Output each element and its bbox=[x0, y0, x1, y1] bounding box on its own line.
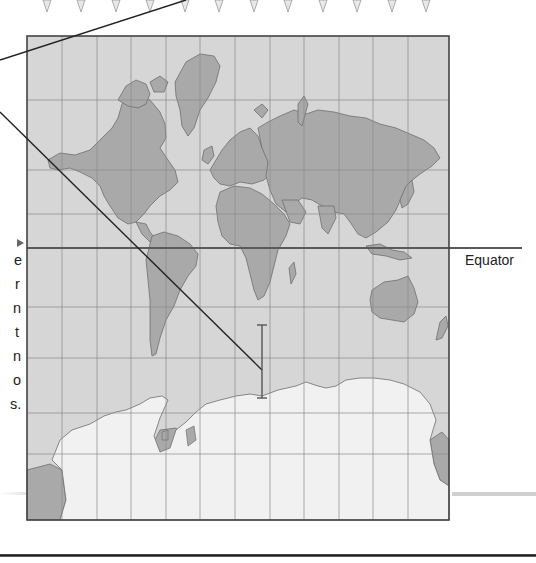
faded-rule-right bbox=[452, 492, 536, 496]
mercator-map-diagram bbox=[0, 0, 536, 563]
caption-char-1: e bbox=[14, 253, 22, 268]
top-projection-markers bbox=[43, 0, 430, 12]
caption-arrow-icon bbox=[17, 239, 24, 247]
faded-rule-left bbox=[0, 492, 26, 495]
caption-char-3: n bbox=[13, 301, 21, 316]
caption-char-4: t bbox=[15, 325, 19, 340]
caption-char-6: o bbox=[13, 373, 21, 388]
page-bottom-rule bbox=[0, 554, 536, 557]
equator-label: Equator bbox=[465, 252, 514, 268]
caption-char-2: r bbox=[15, 277, 20, 292]
caption-char-7: s. bbox=[10, 397, 21, 412]
caption-char-5: n bbox=[13, 349, 21, 364]
antarctic-peninsula-region bbox=[27, 464, 66, 520]
